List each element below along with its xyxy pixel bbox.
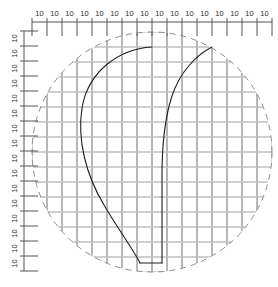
dimension-label-horizontal: 10 (200, 9, 208, 18)
dimension-label-horizontal: 10 (260, 9, 268, 18)
dimension-label-horizontal: 10 (110, 9, 118, 18)
dimension-label-vertical: 10 (10, 169, 19, 177)
dimension-label-vertical: 10 (10, 199, 19, 207)
dimension-label-horizontal: 10 (245, 9, 253, 18)
dimension-label-horizontal: 10 (140, 9, 148, 18)
dimension-label-horizontal: 10 (80, 9, 88, 18)
dimension-label-vertical: 10 (10, 259, 19, 267)
dimension-label-vertical: 10 (10, 79, 19, 87)
dimension-label-horizontal: 10 (125, 9, 133, 18)
right-profile-curve (162, 47, 212, 263)
drawing-svg: 10101010101010101010101010101010 1010101… (0, 0, 278, 287)
vertical-dimension-ruler: 10101010101010101010101010101010 (10, 31, 38, 271)
dimension-label-horizontal: 10 (185, 9, 193, 18)
dimension-label-vertical: 10 (10, 139, 19, 147)
dimension-label-vertical: 10 (10, 244, 19, 252)
dimension-label-horizontal: 10 (230, 9, 238, 18)
horizontal-dimension-ruler: 10101010101010101010101010101010 (32, 9, 272, 36)
dimension-label-horizontal: 10 (65, 9, 73, 18)
dimension-label-vertical: 10 (10, 109, 19, 117)
dimension-label-vertical: 10 (10, 214, 19, 222)
dimension-label-vertical: 10 (10, 154, 19, 162)
technical-drawing-canvas: 10101010101010101010101010101010 1010101… (0, 0, 278, 287)
dimension-label-horizontal: 10 (35, 9, 43, 18)
profile-curves-layer (81, 47, 212, 263)
dimension-label-horizontal: 10 (170, 9, 178, 18)
dimension-label-vertical: 10 (10, 49, 19, 57)
dimension-label-horizontal: 10 (155, 9, 163, 18)
left-profile-curve (81, 47, 152, 263)
dimension-label-vertical: 10 (10, 229, 19, 237)
dimension-label-horizontal: 10 (215, 9, 223, 18)
grid-layer (32, 32, 272, 272)
dimension-label-horizontal: 10 (50, 9, 58, 18)
dimension-label-vertical: 10 (10, 184, 19, 192)
dimension-label-vertical: 10 (10, 124, 19, 132)
dimension-label-vertical: 10 (10, 64, 19, 72)
dimension-label-vertical: 10 (10, 94, 19, 102)
dimension-label-horizontal: 10 (95, 9, 103, 18)
dimension-label-vertical: 10 (10, 34, 19, 42)
